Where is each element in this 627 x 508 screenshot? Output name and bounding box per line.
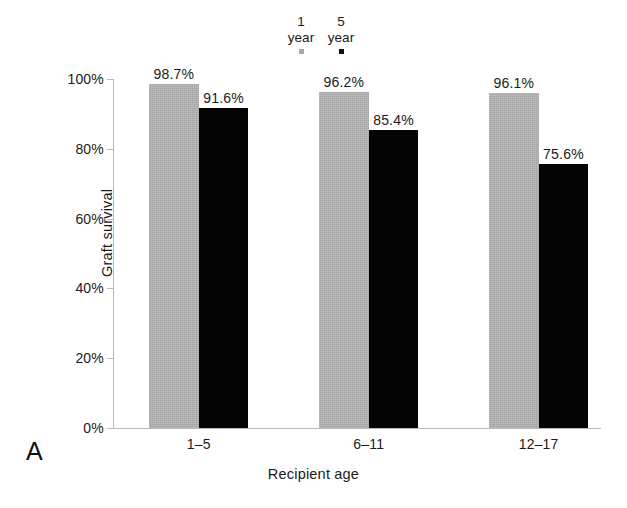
- legend-swatch-5-year-icon: [339, 49, 344, 54]
- x-category-label: 12–17: [519, 436, 559, 452]
- y-tick-mark: [107, 288, 113, 289]
- y-tick-mark: [107, 219, 113, 220]
- bar-value-label: 98.7%: [154, 66, 195, 82]
- legend-item-1-year: 1 year: [281, 14, 321, 54]
- bar-1-year-1-5: 98.7%: [149, 84, 199, 428]
- y-tick-label: 100%: [67, 71, 104, 87]
- x-category-label: 6–11: [353, 436, 384, 452]
- bar-value-label: 96.1%: [493, 75, 534, 91]
- bar-5-year-1-5: 91.6%: [199, 108, 249, 428]
- y-tick-mark: [107, 79, 113, 80]
- x-category-label: 1–5: [187, 436, 211, 452]
- bar-value-label: 96.2%: [323, 74, 364, 90]
- x-axis-title: Recipient age: [0, 466, 627, 482]
- legend-5-year-unit: year: [321, 30, 361, 46]
- bar-value-label: 91.6%: [203, 90, 244, 106]
- y-tick-label: 60%: [75, 211, 104, 227]
- y-tick-label: 0%: [83, 420, 104, 436]
- bar-5-year-12-17: 75.6%: [539, 164, 589, 428]
- y-tick-mark: [107, 149, 113, 150]
- legend-item-5-year: 5 year: [321, 14, 361, 54]
- legend-1-year-unit: year: [281, 30, 321, 46]
- bar-value-label: 75.6%: [543, 146, 584, 162]
- legend-1-year-number: 1: [281, 14, 321, 30]
- legend-swatch-1-year-icon: [299, 49, 304, 54]
- chart-legend: 1 year 5 year: [281, 14, 367, 66]
- y-tick-label: 40%: [75, 280, 104, 296]
- plot-area: 0%20%40%60%80%100% 98.7%91.6%96.2%85.4%9…: [113, 79, 600, 428]
- x-axis-line: [113, 428, 601, 429]
- y-tick-mark: [107, 428, 113, 429]
- panel-label: A: [26, 437, 43, 466]
- y-tick-mark: [107, 358, 113, 359]
- y-tick-label: 80%: [75, 141, 104, 157]
- y-tick-label: 20%: [75, 350, 104, 366]
- bar-value-label: 85.4%: [373, 112, 414, 128]
- bar-1-year-12-17: 96.1%: [489, 93, 539, 428]
- figure-panel: 1 year 5 year 0%20%40%60%80%100% 98.7%91…: [0, 0, 627, 508]
- bar-1-year-6-11: 96.2%: [319, 92, 369, 428]
- bar-5-year-6-11: 85.4%: [369, 130, 419, 428]
- legend-5-year-number: 5: [321, 14, 361, 30]
